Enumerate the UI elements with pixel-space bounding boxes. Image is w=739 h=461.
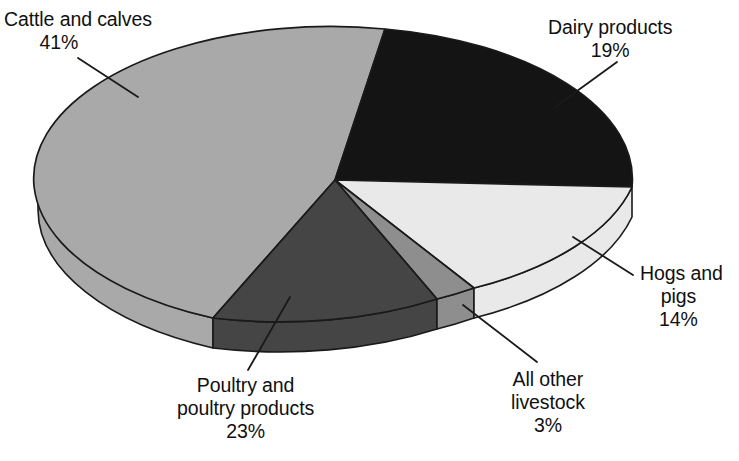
leader-line-all-other-livestock [463, 305, 537, 362]
slice-label-hogs-and-pigs-text-2: pigs [640, 285, 723, 308]
slice-label-all-other-livestock: All other livestock 3% [511, 368, 585, 437]
slice-label-dairy-products-percent: 19% [548, 39, 672, 62]
pie-chart-graphic [0, 0, 739, 461]
slice-label-hogs-and-pigs-text-1: Hogs and [640, 262, 723, 285]
slice-label-all-other-livestock-text-1: All other [511, 368, 585, 391]
slice-label-all-other-livestock-text-2: livestock [511, 391, 585, 414]
slice-label-cattle-and-calves-percent: 41% [4, 31, 152, 54]
slice-label-hogs-and-pigs-percent: 14% [640, 308, 723, 331]
slice-label-dairy-products-text: Dairy products [548, 16, 672, 39]
slice-label-poultry-and-poultry-products-percent: 23% [177, 420, 314, 443]
slice-label-hogs-and-pigs: Hogs and pigs 14% [640, 262, 723, 331]
slice-label-poultry-and-poultry-products-text-1: Poultry and [177, 374, 314, 397]
slice-label-poultry-and-poultry-products: Poultry and poultry products 23% [177, 374, 314, 443]
slice-label-all-other-livestock-percent: 3% [511, 414, 585, 437]
pie-chart: Cattle and calves 41% Dairy products 19%… [0, 0, 739, 461]
slice-label-poultry-and-poultry-products-text-2: poultry products [177, 397, 314, 420]
slice-label-cattle-and-calves: Cattle and calves 41% [4, 8, 152, 54]
slice-label-cattle-and-calves-text: Cattle and calves [4, 8, 152, 31]
slice-label-dairy-products: Dairy products 19% [548, 16, 672, 62]
